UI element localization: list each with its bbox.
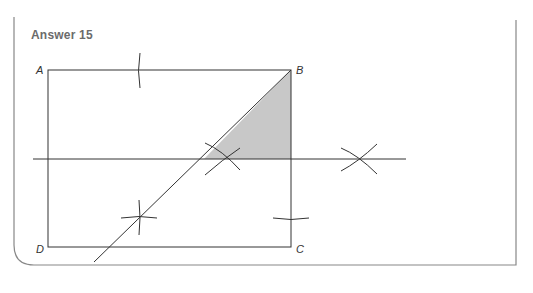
construction-diagram: A B C D: [0, 0, 533, 293]
angle-bisector: [94, 70, 291, 262]
label-d: D: [36, 243, 44, 255]
label-a: A: [35, 64, 43, 76]
arc-cross-right-2: [341, 144, 377, 171]
label-b: B: [296, 64, 303, 76]
label-c: C: [296, 243, 304, 255]
arc-cross-right-1: [341, 148, 377, 174]
